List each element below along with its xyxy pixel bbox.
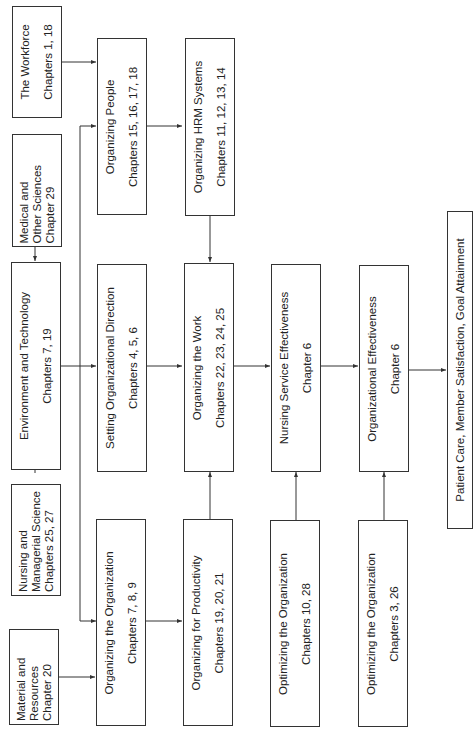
organizing-people-title: Organizing People (104, 79, 117, 174)
material-line1: Material and (15, 658, 28, 721)
optimizing-1-title: Optimizing the Organization (277, 553, 290, 695)
productivity-title: Organizing for Productivity (190, 555, 203, 690)
medical-line2: Other Sciences (31, 164, 44, 243)
environment-title: Environment and Technology (18, 292, 31, 440)
organizing-people-chapters: Chapters 15, 16, 17, 18 (127, 66, 140, 186)
medical-chapters: Chapter 29 (44, 186, 57, 243)
organizing-organization-title: Organizing the Organization (103, 551, 116, 694)
nursing-science-line1: Nursing and (17, 530, 30, 592)
box-organizing-the-organization: Organizing the Organization Chapters 7, … (96, 519, 146, 726)
setting-direction-chapters: Chapters 4, 5, 6 (127, 327, 140, 409)
box-material-resources: Material and Resources Chapter 20 (9, 629, 59, 725)
nursing-effectiveness-title: Nursing Service Effectiveness (278, 292, 291, 445)
outcome-title: Patient Care, Member Satisfaction, Goal … (454, 238, 467, 501)
box-organizational-effectiveness: Organizational Effectiveness Chapter 6 (359, 265, 409, 472)
nursing-science-line2: Managerial Science (30, 491, 43, 592)
organizing-organization-chapters: Chapters 7, 8, 9 (126, 582, 139, 664)
setting-direction-title: Setting Organizational Direction (104, 287, 117, 449)
material-chapters: Chapter 20 (41, 664, 54, 721)
material-line2: Resources (28, 666, 41, 721)
box-the-workforce: The Workforce Chapters 1, 18 (12, 6, 62, 118)
optimizing-2-title: Optimizing the Organization (365, 553, 378, 695)
productivity-chapters: Chapters 19, 20, 21 (213, 572, 226, 673)
hrm-systems-title: Organizing HRM Systems (192, 61, 205, 193)
org-effectiveness-title: Organizational Effectiveness (366, 296, 379, 442)
box-organizing-people: Organizing People Chapters 15, 16, 17, 1… (97, 38, 147, 215)
box-organizing-the-work: Organizing the Work Chapters 22, 23, 24,… (184, 263, 234, 472)
box-nursing-service-effectiveness: Nursing Service Effectiveness Chapter 6 (271, 264, 321, 472)
box-organizing-for-productivity: Organizing for Productivity Chapters 19,… (183, 519, 233, 726)
box-optimizing-the-organization-1: Optimizing the Organization Chapters 10,… (270, 520, 320, 727)
nursing-science-chapters: Chapters 25, 27 (43, 510, 56, 592)
medical-line1: Medical and (18, 181, 31, 243)
nursing-effectiveness-chapters: Chapter 6 (301, 343, 314, 394)
workforce-title: The Workforce (19, 24, 32, 99)
box-medical-sciences: Medical and Other Sciences Chapter 29 (12, 134, 62, 247)
optimizing-1-chapters: Chapters 10, 28 (300, 583, 313, 665)
org-effectiveness-chapters: Chapter 6 (389, 343, 402, 394)
box-nursing-managerial-science: Nursing and Managerial Science Chapters … (11, 484, 61, 596)
organizing-work-title: Organizing the Work (191, 315, 204, 420)
hrm-systems-chapters: Chapters 11, 12, 13, 14 (215, 67, 228, 186)
box-optimizing-the-organization-2: Optimizing the Organization Chapters 3, … (358, 520, 408, 727)
box-organizing-hrm-systems: Organizing HRM Systems Chapters 11, 12, … (185, 38, 235, 216)
box-outcome: Patient Care, Member Satisfaction, Goal … (447, 211, 473, 529)
box-environment-technology: Environment and Technology Chapters 7, 1… (11, 262, 61, 470)
workforce-chapters: Chapters 1, 18 (42, 24, 55, 99)
box-setting-organizational-direction: Setting Organizational Direction Chapter… (97, 264, 147, 472)
environment-chapters: Chapters 7, 19 (41, 328, 54, 403)
optimizing-2-chapters: Chapters 3, 26 (388, 586, 401, 661)
organizing-work-chapters: Chapters 22, 23, 24, 25 (214, 307, 227, 427)
